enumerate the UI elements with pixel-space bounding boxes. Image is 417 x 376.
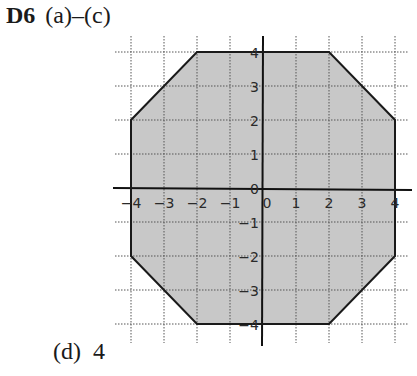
answer-part-label: (d) <box>53 338 81 364</box>
y-tick-label: 3 <box>250 79 259 95</box>
x-tick-label: −2 <box>187 195 208 211</box>
x-tick-label: 4 <box>391 195 400 211</box>
y-tick-label: −3 <box>238 283 259 299</box>
y-tick-label: −2 <box>238 249 259 265</box>
y-tick-label: −4 <box>238 317 259 333</box>
x-tick-label: 2 <box>325 195 334 211</box>
y-axis <box>262 36 263 346</box>
y-tick-label: 1 <box>250 147 259 163</box>
y-tick-label: 0 <box>250 181 259 197</box>
x-tick-label: 3 <box>358 195 367 211</box>
y-tick-label: 2 <box>250 113 259 129</box>
answer-value: 4 <box>93 338 105 364</box>
x-tick-label: 1 <box>292 195 301 211</box>
x-tick-label: −3 <box>154 195 175 211</box>
coordinate-grid: −4−3−2−10123443210−1−2−3−4 <box>0 0 417 376</box>
x-tick-label: 0 <box>263 195 272 211</box>
y-tick-label: −1 <box>238 215 259 231</box>
y-tick-label: 4 <box>250 45 259 61</box>
x-tick-label: −1 <box>220 195 241 211</box>
x-tick-label: −4 <box>121 195 142 211</box>
answer-d: (d) 4 <box>53 338 105 365</box>
